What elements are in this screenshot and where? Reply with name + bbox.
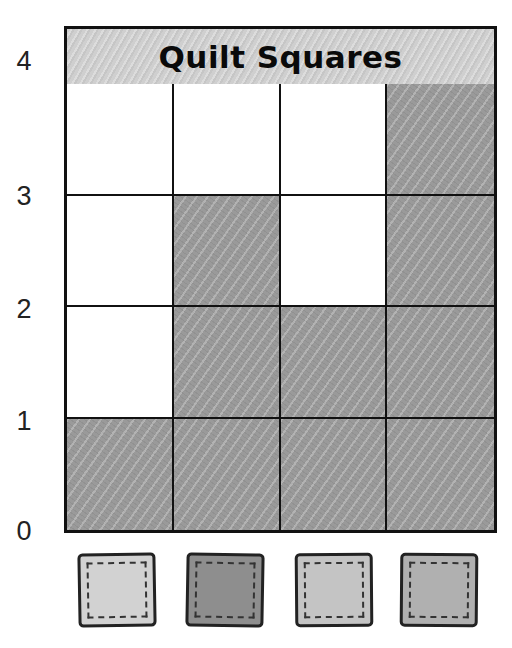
grid-cell-col1-row1: [67, 419, 174, 531]
quilt-square-swatch-3: [295, 553, 374, 628]
grid-cell-col1-row3: [67, 196, 174, 308]
grid-cell-col2-row3: [174, 196, 281, 308]
quilt-square-swatch-4: [400, 553, 479, 628]
y-tick-1: 1: [2, 408, 46, 435]
bar-graph-grid: [64, 84, 497, 533]
stitch-border: [195, 561, 256, 618]
quilt-square-swatch-2: [185, 552, 264, 627]
stitch-border: [409, 562, 469, 619]
grid-cell-col3-row1: [281, 419, 388, 531]
chart-title-bar: Quilt Squares: [64, 26, 497, 87]
grid-cell-col4-row3: [387, 196, 494, 308]
y-tick-4: 4: [2, 48, 46, 75]
grid-cell-col3-row4: [281, 84, 388, 196]
chart-title: Quilt Squares: [158, 39, 402, 75]
grid-cell-col2-row1: [174, 419, 281, 531]
y-tick-2: 2: [2, 296, 46, 323]
grid-cell-col3-row2: [281, 307, 388, 419]
grid-cell-col1-row4: [67, 84, 174, 196]
grid-cell-col4-row2: [387, 307, 494, 419]
y-tick-0: 0: [2, 518, 46, 545]
grid-cell-col4-row1: [387, 419, 494, 531]
stitch-border: [87, 561, 148, 618]
grid-cell-col2-row2: [174, 307, 281, 419]
stitch-border: [304, 562, 364, 619]
y-tick-3: 3: [2, 183, 46, 210]
grid-cell-col4-row4: [387, 84, 494, 196]
grid-cell-col1-row2: [67, 307, 174, 419]
quilt-square-swatch-1: [77, 552, 156, 627]
grid-cell-col2-row4: [174, 84, 281, 196]
grid-cell-col3-row3: [281, 196, 388, 308]
